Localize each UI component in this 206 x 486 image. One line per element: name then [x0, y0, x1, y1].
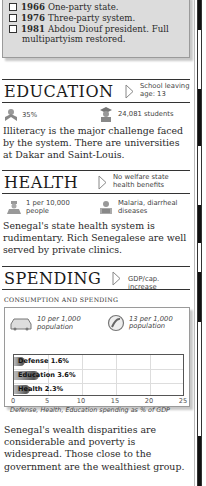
- chart-caption: Defense, Health, Education spending as %…: [10, 406, 170, 414]
- checkbox-icon: [9, 25, 17, 33]
- x-tick: 10: [77, 397, 85, 405]
- bar-label: Defense 1.6%: [18, 357, 69, 366]
- strip-segment: [198, 89, 201, 146]
- health-section: HEALTH No welfare statehealth benefits 1…: [2, 170, 190, 257]
- car-icon: [9, 317, 33, 331]
- section-title: SPENDING: [4, 269, 101, 288]
- section-header: HEALTH No welfare statehealth benefits: [2, 170, 190, 194]
- spending-section: SPENDING GDP/cap. increase: [2, 266, 190, 290]
- doctors-stat: 1 per 10,000people: [6, 199, 70, 215]
- section-note: No welfare statehealth benefits: [113, 173, 169, 189]
- arrow-right-icon: [112, 271, 121, 286]
- section-title: EDUCATION: [4, 82, 114, 101]
- checkbox-icon: [9, 3, 17, 11]
- telephones-stat: 13 per 1,000population: [107, 314, 173, 332]
- x-tick: 5: [45, 397, 49, 405]
- section-note: GDP/cap. increase: [128, 275, 190, 291]
- literacy-stat: 35%: [4, 108, 37, 122]
- history-item-continuation: multipartyism restored.: [9, 34, 189, 45]
- x-tick: 25: [179, 397, 187, 405]
- health-paragraph: Senegal's state health system is rudimen…: [2, 220, 190, 257]
- stats-row: 35% 24,081 students: [2, 103, 190, 125]
- doctor-icon: [6, 200, 22, 215]
- education-paragraph: Illiteracy is the major challenge faced …: [2, 125, 190, 162]
- bar-label: Health 2.3%: [18, 385, 63, 394]
- section-header: SPENDING GDP/cap. increase: [2, 266, 190, 290]
- x-tick: 15: [111, 397, 119, 405]
- history-item: 1976 Three-party system.: [9, 13, 189, 24]
- section-note: School leavingage: 13: [140, 82, 190, 98]
- section-header: EDUCATION School leavingage: 13: [2, 79, 190, 103]
- cars-stat: 10 per 1,000population: [9, 316, 81, 331]
- strip-segment: [198, 272, 201, 322]
- divider-line: [194, 0, 195, 486]
- x-tick: 20: [145, 397, 153, 405]
- history-item: 1966 One-party state.: [9, 2, 189, 13]
- reader-icon: [4, 108, 18, 122]
- arrow-right-icon: [125, 84, 134, 99]
- graduate-icon: [98, 106, 114, 122]
- telephone-icon: [107, 314, 125, 332]
- stats-row: 1 per 10,000people Malaria, diarrhealdis…: [2, 194, 190, 220]
- x-tick: 0: [11, 397, 15, 405]
- subheading: CONSUMPTION AND SPENDING: [4, 296, 118, 303]
- history-item: 1981 Abdou Diouf president. Full: [9, 24, 189, 35]
- arrow-right-icon: [98, 175, 107, 190]
- section-title: HEALTH: [4, 173, 78, 192]
- bar-plot: Defense 1.6% Education 3.6% Health 2.3%: [13, 354, 184, 396]
- strip-segment: [198, 436, 201, 486]
- checkbox-icon: [9, 14, 17, 22]
- strip-segment: [198, 0, 201, 30]
- disease-stat: Malaria, diarrhealdiseases: [98, 199, 178, 215]
- education-section: EDUCATION School leavingage: 13 35% 24,0…: [2, 79, 190, 162]
- history-box: 1966 One-party state. 1976 Three-party s…: [2, 0, 190, 58]
- students-stat: 24,081 students: [98, 106, 173, 122]
- scale-strip: [197, 0, 202, 486]
- disease-icon: [98, 200, 114, 215]
- spending-chart: 10 per 1,000population 13 per 1,000popul…: [4, 307, 190, 407]
- bar-label: Education 3.6%: [18, 371, 76, 380]
- strip-segment: [198, 205, 201, 243]
- spending-paragraph: Senegal's wealth disparities are conside…: [3, 424, 191, 473]
